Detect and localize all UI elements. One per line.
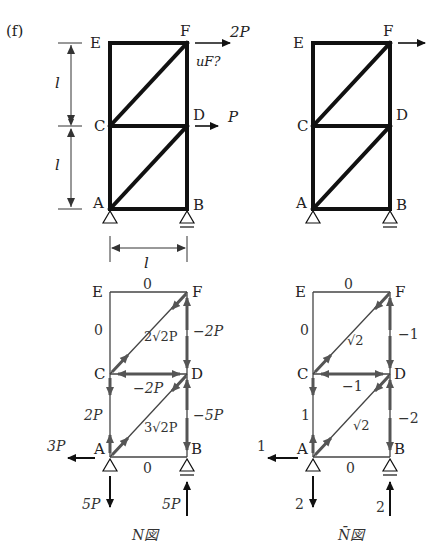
dimension-label-upper: l xyxy=(55,74,60,92)
node-label-A: A xyxy=(93,440,105,458)
node-label-E: E xyxy=(293,34,304,52)
unknown-displacement-label: uF? xyxy=(196,54,221,69)
member-force-CD: −1 xyxy=(342,378,363,394)
n-diagram-caption: N図 xyxy=(131,527,160,543)
node-label-D: D xyxy=(396,106,408,124)
pin-support-A xyxy=(306,211,320,223)
reaction-label-A-vertical: 5P xyxy=(82,496,101,512)
member-force-CF: 2√2P xyxy=(144,329,178,344)
member-force-DB: −2 xyxy=(398,410,419,426)
member-force-CA: 2P xyxy=(83,407,103,423)
reaction-label-A-horizontal: 3P xyxy=(47,438,66,454)
node-label-C: C xyxy=(297,117,308,135)
node-label-A: A xyxy=(295,194,307,212)
node-label-F: F xyxy=(180,22,190,40)
dim-arrow xyxy=(67,45,75,54)
node-label-F: F xyxy=(383,22,393,40)
member-force-CA: 1 xyxy=(301,407,310,423)
load-label-D: P xyxy=(227,108,239,126)
dimension-label-width: l xyxy=(144,254,149,272)
member-force-CD: −2P xyxy=(133,380,164,396)
node-label-D: D xyxy=(193,106,205,124)
pin-support-A xyxy=(103,211,117,223)
node-label-B: B xyxy=(193,196,204,214)
node-label-F: F xyxy=(395,283,405,301)
node-label-C: C xyxy=(94,117,105,135)
load-label-F: 2P xyxy=(229,23,251,41)
node-label-E: E xyxy=(295,283,306,301)
reaction-label-B-vertical: 2 xyxy=(376,499,385,515)
roller-support-B xyxy=(383,211,397,223)
dim-arrow xyxy=(67,115,75,124)
node-label-C: C xyxy=(94,365,105,383)
dimension-label-lower: l xyxy=(55,156,60,174)
truss-unit-load: E F C D A B xyxy=(293,22,425,227)
roller-support-B xyxy=(383,459,397,471)
node-label-C: C xyxy=(297,365,308,383)
member-CF xyxy=(110,43,187,126)
nbar-diagram-caption: N̄図 xyxy=(337,526,366,543)
node-label-E: E xyxy=(90,34,101,52)
member-force-AB: 0 xyxy=(143,460,152,476)
pin-support-A xyxy=(306,459,320,471)
member-force-EF: 0 xyxy=(143,276,152,292)
dim-arrow xyxy=(67,198,75,207)
member-force-FD: −2P xyxy=(193,323,224,339)
member-force-AD: √2 xyxy=(353,418,370,433)
member-force-EC: 0 xyxy=(94,322,103,338)
node-label-D: D xyxy=(394,365,406,383)
reaction-label-B-vertical: 5P xyxy=(162,496,181,512)
member-force-AD: 3√2P xyxy=(144,420,178,435)
dim-arrow xyxy=(67,128,75,137)
roller-support-B xyxy=(180,459,194,471)
truss-figure: (f) E F C D A B 2P uF? P xyxy=(0,0,427,552)
member-AD xyxy=(110,126,187,209)
dimension-vertical xyxy=(58,43,82,209)
pin-support-A xyxy=(103,459,117,471)
member-force-EF: 0 xyxy=(344,276,353,292)
member-force-AB: 0 xyxy=(346,460,355,476)
figure-label: (f) xyxy=(6,22,23,40)
member-force-CF: √2 xyxy=(347,333,364,348)
member-force-DB: −5P xyxy=(193,407,224,423)
node-label-F: F xyxy=(192,283,202,301)
truss-loaded: E F C D A B 2P uF? P l l xyxy=(55,22,251,272)
node-label-A: A xyxy=(92,194,104,212)
roller-support-B xyxy=(180,211,194,223)
node-label-B: B xyxy=(396,196,407,214)
member-force-FD: −1 xyxy=(398,326,419,342)
node-label-E: E xyxy=(92,283,103,301)
node-label-B: B xyxy=(394,440,405,458)
node-label-B: B xyxy=(191,440,202,458)
node-label-A: A xyxy=(296,440,308,458)
node-label-D: D xyxy=(191,365,203,383)
reaction-label-A-vertical: 2 xyxy=(295,496,304,512)
nbar-diagram: E F C D A B 0 0 √2 −1 −1 1 √2 −2 0 1 2 2… xyxy=(257,276,419,543)
member-force-EC: 0 xyxy=(300,322,309,338)
reaction-label-A-horizontal: 1 xyxy=(257,438,266,454)
n-diagram: E F C D A B 0 0 2√2P −2P −2P 2P 3√2P −5P… xyxy=(47,276,224,543)
dim-arrow xyxy=(177,244,186,252)
dim-arrow xyxy=(111,244,120,252)
